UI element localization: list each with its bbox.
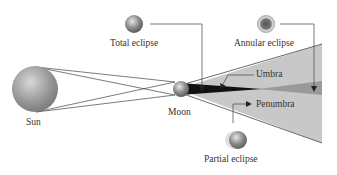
partial-eclipse-icon [225,131,247,149]
moon-label: Moon [168,107,191,117]
annular-eclipse-icon [257,15,275,33]
total-eclipse-icon [125,15,143,33]
total-eclipse-label: Total eclipse [110,38,158,48]
partial-eclipse-label: Partial eclipse [204,154,258,164]
annular-eclipse-label: Annular eclipse [234,38,294,48]
sun-sphere [12,66,58,112]
penumbra-label: Penumbra [256,99,295,109]
umbra-label: Umbra [256,69,282,79]
solar-eclipse-diagram [0,0,337,175]
sun-label: Sun [26,117,41,127]
moon-sphere [173,81,189,97]
